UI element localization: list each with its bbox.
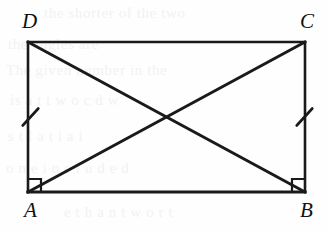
- right-angle-marks: [28, 179, 305, 192]
- vertex-label-A: A: [24, 200, 37, 221]
- diagonals: [28, 42, 305, 192]
- vertex-label-C: C: [300, 11, 314, 32]
- tick-mark-AD-icon: [23, 109, 39, 126]
- vertex-label-B: B: [300, 200, 313, 221]
- geometry-canvas: [0, 0, 329, 233]
- geometry-figure: the shorter of the two the angles are Th…: [0, 0, 329, 233]
- vertex-label-D: D: [22, 11, 37, 32]
